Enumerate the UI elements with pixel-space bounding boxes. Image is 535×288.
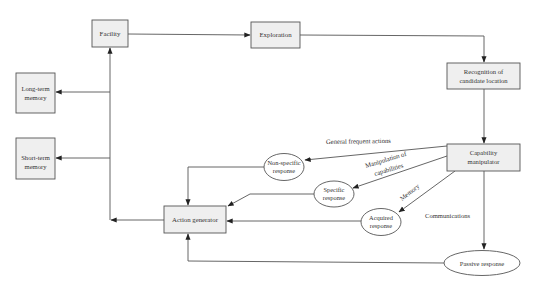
- label-general-frequent-actions: General frequent actions: [326, 137, 391, 145]
- edge-specific-action: [228, 194, 314, 206]
- node-nonspecific-label-1: Non-specific: [267, 159, 300, 166]
- diagram-canvas: General frequent actions Manipulation of…: [0, 0, 535, 288]
- node-acquired-label-1: Acquired: [369, 214, 394, 221]
- node-action-generator-label: Action generator: [172, 216, 219, 223]
- node-facility-label: Facility: [100, 30, 121, 37]
- edge-facility-exploration: [128, 34, 250, 35]
- node-long-term-label-2: memory: [25, 94, 48, 101]
- node-specific-label-1: Specific: [324, 186, 345, 193]
- node-short-term-memory: Short-term memory: [16, 138, 55, 179]
- node-capability-label-2: manipulator: [468, 158, 501, 165]
- node-recognition: Recognition of candidate location: [447, 63, 520, 89]
- node-capability-label-1: Capability: [470, 149, 498, 156]
- node-facility: Facility: [92, 20, 128, 47]
- edge-passive-action: [188, 234, 444, 263]
- node-specific-label-2: response: [323, 194, 346, 201]
- node-long-term-label-1: Long-term: [21, 85, 50, 92]
- edge-nonspecific-action: [188, 167, 264, 205]
- node-passive-label: Passive response: [460, 260, 505, 267]
- label-communications: Communications: [425, 212, 470, 219]
- node-nonspecific-label-2: response: [273, 167, 296, 174]
- node-exploration-label: Exploration: [259, 31, 292, 38]
- node-long-term-memory: Long-term memory: [16, 73, 55, 113]
- flow-diagram: General frequent actions Manipulation of…: [0, 0, 535, 288]
- node-acquired-response: Acquired response: [361, 209, 401, 236]
- node-short-term-label-1: Short-term: [21, 154, 50, 161]
- node-nonspecific-response: Non-specific response: [264, 154, 304, 181]
- node-recognition-label-2: candidate location: [459, 77, 508, 84]
- node-specific-response: Specific response: [314, 181, 354, 207]
- node-capability-manipulator: Capability manipulator: [447, 144, 520, 171]
- node-passive-response: Passive response: [444, 251, 520, 276]
- node-exploration: Exploration: [251, 22, 300, 48]
- node-recognition-label-1: Recognition of: [464, 68, 504, 75]
- edge-exploration-recognition: [300, 35, 484, 62]
- node-acquired-label-2: response: [370, 222, 393, 229]
- node-short-term-label-2: memory: [25, 163, 48, 170]
- node-action-generator: Action generator: [164, 206, 226, 233]
